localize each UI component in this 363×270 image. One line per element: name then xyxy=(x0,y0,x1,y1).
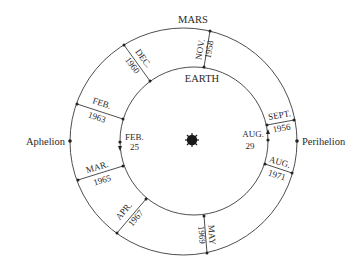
aphelion-marker xyxy=(68,139,72,143)
perihelion-label: Perihelion xyxy=(302,136,346,147)
opposition-mar-1965: MAR. 1965 xyxy=(77,159,125,188)
earth-marker-feb-month: FEB. xyxy=(125,132,144,142)
earth-marker-aug-day: 29 xyxy=(246,141,256,151)
svg-text:1969: 1969 xyxy=(196,225,207,244)
earth-marker-aug-month: AUG. xyxy=(242,129,264,139)
earth-marker-aug: AUG. 29 xyxy=(242,129,270,151)
svg-text:FEB.: FEB. xyxy=(91,95,112,110)
opposition-feb-1963: FEB. 1963 xyxy=(76,95,125,124)
opposition-nov-1958: NOV. 1958 xyxy=(193,30,215,69)
opposition-dec-1960: DEC. 1960 xyxy=(123,44,154,83)
earth-label: EARTH xyxy=(185,73,220,84)
mars-label: MARS xyxy=(178,14,208,25)
svg-text:1956: 1956 xyxy=(272,121,292,134)
svg-text:SEPT.: SEPT. xyxy=(267,108,291,122)
earth-marker-feb: FEB. 25 xyxy=(118,132,144,152)
svg-text:1963: 1963 xyxy=(87,110,108,125)
orbit-diagram: MARS EARTH Aphelion Perihelion FEB. 25 A… xyxy=(0,0,363,270)
opposition-sept-1956: SEPT. 1956 xyxy=(266,108,296,134)
opposition-may-1969: MAY 1969 xyxy=(196,215,217,255)
perihelion-marker xyxy=(295,139,299,143)
mars-orbit xyxy=(70,28,297,255)
earth-marker-feb-day: 25 xyxy=(130,142,140,152)
aphelion-label: Aphelion xyxy=(26,136,66,147)
opposition-apr-1967: APR. 1967 xyxy=(114,198,148,235)
svg-text:1958: 1958 xyxy=(203,39,216,59)
opposition-aug-1971: AUG. 1971 xyxy=(264,154,294,182)
sun-icon xyxy=(185,133,199,147)
